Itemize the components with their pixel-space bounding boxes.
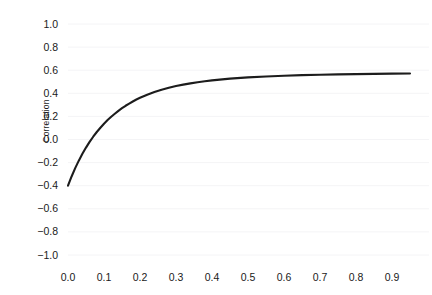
y-axis-title: Correlation (41, 81, 59, 161)
x-tick-label: 0.6 (264, 272, 304, 283)
x-tick-label: 0.7 (300, 272, 340, 283)
x-tick-label: 0.2 (120, 272, 160, 283)
x-tick-label: 0.3 (156, 272, 196, 283)
x-tick-label: 0.4 (192, 272, 232, 283)
x-tick-label: 0.1 (84, 272, 124, 283)
x-axis-tick-labels: 0.00.10.20.30.40.50.60.70.80.9 (0, 0, 432, 295)
chart-figure: −1.0−0.8−0.6−0.4−0.20.00.20.40.60.81.0 0… (0, 0, 432, 295)
x-tick-label: 0.9 (372, 272, 412, 283)
x-tick-label: 0.0 (48, 272, 88, 283)
x-tick-label: 0.5 (228, 272, 268, 283)
x-tick-label: 0.8 (336, 272, 376, 283)
